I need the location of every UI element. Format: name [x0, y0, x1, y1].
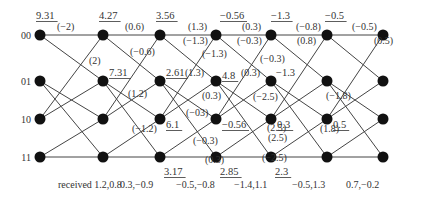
branch-metric: (−03) — [186, 107, 208, 119]
branch-metric: (2) — [89, 55, 101, 67]
trellis-node — [98, 76, 109, 87]
trellis-node — [35, 30, 46, 41]
branch-metric: (0.8) — [297, 35, 316, 47]
branch-metric: (−0.5) — [352, 21, 377, 33]
trellis-node — [98, 114, 109, 125]
trellis-node — [266, 30, 277, 41]
branch-metric: (1.3) — [185, 67, 204, 79]
trellis-node — [155, 152, 166, 163]
branch-metric: (−1.8) — [326, 90, 351, 102]
trellis-branch — [40, 119, 103, 157]
branch-metric: (0.6) — [125, 21, 144, 33]
path-metric: 2.61 — [166, 67, 184, 78]
path-metric: 3.17 — [164, 166, 182, 177]
path-metric: −1.3 — [271, 10, 290, 21]
state-label: 01 — [21, 76, 31, 87]
branch-metric: (−2) — [57, 21, 74, 33]
path-metric: −0.56 — [220, 10, 244, 21]
trellis-node — [322, 76, 333, 87]
path-metric: 2.85 — [220, 166, 238, 177]
trellis-node — [378, 76, 389, 87]
trellis-node — [98, 30, 109, 41]
trellis-diagram: 00011011 9.314.277.313.562.616.13.17−0.5… — [0, 0, 444, 197]
branch-metric: (−0.3) — [193, 135, 218, 147]
branch-metric: (0.3) — [205, 154, 224, 166]
branch-metric: (−0.6) — [130, 46, 155, 58]
state-label: 11 — [21, 152, 31, 163]
branch-metric: (−1.3) — [202, 48, 227, 60]
branch-metric: (−0.3) — [237, 35, 262, 47]
path-metric: 2.3 — [275, 166, 288, 177]
path-metric: −0.56 — [222, 119, 246, 130]
received-symbol: −0.5,−0.8 — [176, 179, 215, 190]
state-label: 10 — [21, 114, 31, 125]
trellis-branch — [40, 35, 103, 119]
trellis-node — [35, 152, 46, 163]
trellis-branch — [327, 35, 383, 119]
branch-metric: (−2.5) — [253, 91, 278, 103]
trellis-node — [378, 152, 389, 163]
received-symbol: 0.7,−0.2 — [346, 179, 379, 190]
trellis-node — [266, 76, 277, 87]
branch-metric: (−1.2) — [132, 123, 157, 135]
trellis-node — [35, 76, 46, 87]
trellis-node — [155, 30, 166, 41]
trellis-node — [211, 114, 222, 125]
path-metric: 7.31 — [109, 67, 127, 78]
branch-metric: (2.5) — [268, 132, 287, 144]
branch-metric: (0.3) — [241, 67, 260, 79]
trellis-node — [155, 76, 166, 87]
state-label: 00 — [21, 30, 31, 41]
received-symbol: 0.3,−0.9 — [120, 179, 153, 190]
trellis-node — [211, 30, 222, 41]
path-metric: 9.31 — [36, 10, 54, 21]
path-metric: −0.5 — [325, 10, 344, 21]
path-metric: −1.3 — [276, 67, 295, 78]
branch-metric: (0.3) — [242, 21, 261, 33]
branch-metric: (−1.3) — [183, 35, 208, 47]
trellis-node — [35, 114, 46, 125]
branch-metric: (1.2) — [128, 88, 147, 100]
trellis-node — [211, 76, 222, 87]
trellis-node — [378, 114, 389, 125]
trellis-node — [322, 152, 333, 163]
received-symbol: −1.4,1.1 — [234, 179, 267, 190]
trellis-node — [98, 152, 109, 163]
received-symbol: −0.5,1.3 — [292, 179, 325, 190]
branch-metric: (−0.3) — [260, 53, 285, 65]
path-metric: 6.1 — [166, 119, 179, 130]
branch-metric: (−0.8) — [296, 21, 321, 33]
path-metric: 3.56 — [156, 10, 174, 21]
trellis-node — [322, 30, 333, 41]
branch-metric: (−2.5) — [262, 152, 287, 164]
branch-metric: (0.3) — [202, 90, 221, 102]
branch-metric: (0.5) — [374, 35, 393, 47]
state-labels: 00011011 — [21, 30, 31, 163]
path-metric: 4.8 — [222, 70, 235, 81]
branch-metric: (1.3) — [188, 21, 207, 33]
received-symbol: received 1.2,0.8 — [58, 179, 122, 190]
path-metric: 4.27 — [99, 10, 117, 21]
trellis-branch — [40, 81, 103, 157]
received-sequence: received 1.2,0.80.3,−0.9−0.5,−0.8−1.4,1.… — [58, 179, 379, 190]
branch-metric: (1.8) — [320, 123, 339, 135]
